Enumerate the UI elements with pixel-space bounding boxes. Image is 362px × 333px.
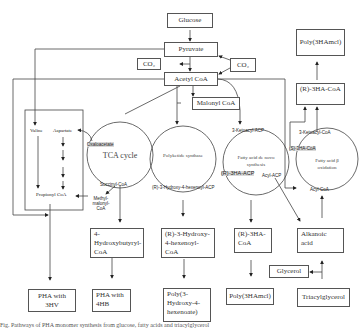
succinyl-coa-label: Succinyl-CoA	[100, 182, 127, 187]
r3ha-coa-top-label: (R)-3HA-CoA	[300, 85, 341, 93]
pyruvate-label: Pyruvate	[179, 45, 204, 54]
acetyl-coa-label: Acetyl CoA	[174, 75, 208, 84]
poly3ha-bottom-box: Poly(3HAmcl)	[226, 288, 274, 305]
pha-3hv-label: PHA with 3HV	[32, 292, 72, 310]
pha-4hb-label: PHA with 4HB	[96, 291, 124, 308]
glucose-box: Glucose	[167, 13, 213, 28]
methylmalonyl-coa-label: Methyl-malonyl-CoA	[90, 196, 112, 211]
malonyl-coa-box: Malonyl CoA	[192, 97, 240, 110]
hydroxybutyryl-coa-label: 4-Hydroxybutyryl-CoA	[94, 230, 141, 256]
co2-left-box: CO₂	[137, 58, 161, 70]
fa-denovo-label: Fatty acid de novo synthesis	[236, 154, 276, 168]
acyl-coa-label: Acyl-CoA	[310, 187, 329, 192]
acetyl-coa-box: Acetyl CoA	[164, 72, 218, 86]
valine-label: Valine	[30, 128, 43, 133]
hydroxyhexenoyl-coa-box: (R)-3-Hydroxy-4-hexenoyl-CoA	[161, 228, 215, 258]
glucose-label: Glucose	[179, 16, 202, 25]
triacylglycerol-label: Triacylglycerol	[302, 293, 345, 302]
r3ha-acp-label: (R)-3HA-ACP	[221, 171, 254, 176]
glycerol-box: Glycerol	[269, 265, 309, 278]
r3ha-coa-top-box: (R)-3HA-CoA	[296, 83, 345, 105]
poly-hydroxyhexenoate-box: Poly(3-Hydroxy-4-hexenoate)	[163, 288, 211, 322]
aspartate-label: Aspartate	[53, 128, 72, 133]
alkanoic-acid-box: Alkanoic acid	[297, 228, 344, 253]
hydroxyhexenoyl-coa-label: (R)-3-Hydroxy-4-hexenoyl-CoA	[165, 230, 210, 256]
co2-right-box: CO₂	[230, 58, 256, 72]
propionyl-coa-label: Propionyl CoA	[36, 192, 66, 197]
polyketide-synthase-label: Polyketide synthase	[163, 152, 203, 159]
alkanoic-acid-label: Alkanoic acid	[301, 230, 327, 247]
pha-3hv-box: PHA with 3HV	[28, 289, 76, 312]
glycerol-label: Glycerol	[277, 267, 302, 276]
oxaloacetate-label: Oxaloacetate	[87, 142, 114, 147]
poly-hydroxyhexenoate-label: Poly(3-Hydroxy-4-hexenoate)	[167, 290, 200, 316]
figure-caption: Fig. Pathways of PHA monomer synthesis f…	[0, 322, 362, 333]
tca-cycle-label: TCA cycle	[100, 152, 140, 159]
poly3ha-bottom-label: Poly(3HAmcl)	[229, 292, 271, 301]
ketoacyl-acp-label: 3-Ketoacyl-ACP	[232, 128, 264, 133]
s3ha-coa-label: (S)-3HA-CoA	[289, 146, 316, 151]
triacylglycerol-box: Triacylglycerol	[297, 288, 350, 307]
malonyl-coa-label: Malonyl CoA	[197, 99, 236, 108]
hydroxybutyryl-coa-box: 4-Hydroxybutyryl-CoA	[90, 228, 144, 258]
poly3ha-top-label: Poly(3HAmcl)	[300, 38, 342, 47]
r3ha-coa-bottom-box: (R)-3HA-CoA	[234, 228, 272, 253]
pha-4hb-box: PHA with 4HB	[92, 289, 131, 312]
fa-beta-oxidation-label: Fatty acid β oxidation	[307, 157, 347, 171]
r3ha-coa-bottom-label: (R)-3HA-CoA	[238, 230, 266, 247]
co2-right-label: CO₂	[237, 61, 249, 70]
ketoacyl-coa-label: 3-Ketoacyl-CoA	[299, 130, 331, 135]
pyruvate-box: Pyruvate	[164, 42, 218, 57]
hydroxy-hexenoyl-acp-label: (R)-3-Hydroxy-4-hexenoyl-ACP	[152, 185, 215, 190]
co2-left-label: CO₂	[143, 60, 155, 69]
poly3ha-top-box: Poly(3HAmcl)	[296, 29, 345, 56]
acyl-acp-label: Acyl-ACP	[262, 173, 281, 178]
